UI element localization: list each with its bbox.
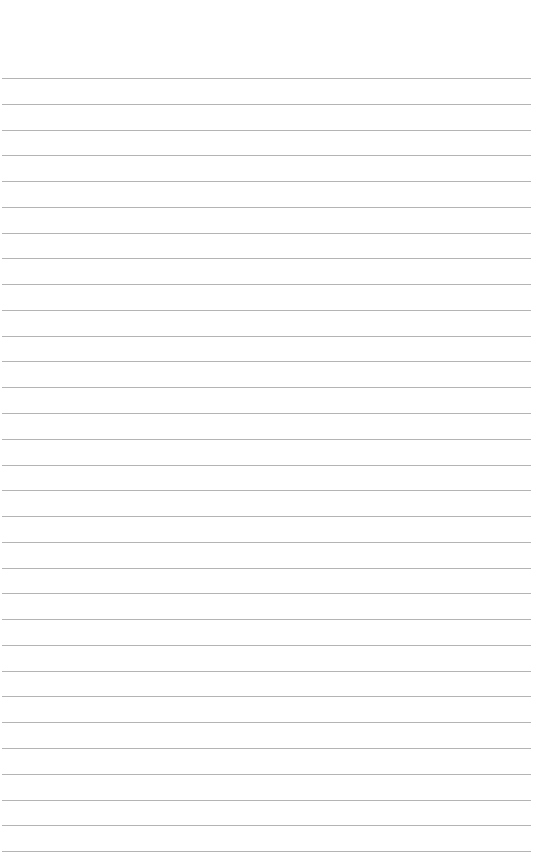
ruled-line bbox=[2, 284, 531, 285]
ruled-line bbox=[2, 722, 531, 723]
ruled-line bbox=[2, 104, 531, 105]
ruled-line bbox=[2, 748, 531, 749]
ruled-line bbox=[2, 516, 531, 517]
ruled-line bbox=[2, 413, 531, 414]
ruled-line bbox=[2, 465, 531, 466]
ruled-line bbox=[2, 258, 531, 259]
ruled-line bbox=[2, 851, 531, 852]
ruled-line bbox=[2, 490, 531, 491]
ruled-line bbox=[2, 619, 531, 620]
ruled-line bbox=[2, 310, 531, 311]
ruled-line bbox=[2, 78, 531, 79]
ruled-line bbox=[2, 155, 531, 156]
ruled-line bbox=[2, 593, 531, 594]
ruled-line bbox=[2, 696, 531, 697]
ruled-line bbox=[2, 207, 531, 208]
ruled-line bbox=[2, 671, 531, 672]
ruled-line bbox=[2, 361, 531, 362]
ruled-line bbox=[2, 568, 531, 569]
ruled-line bbox=[2, 800, 531, 801]
ruled-line bbox=[2, 645, 531, 646]
ruled-line bbox=[2, 387, 531, 388]
lined-paper-page bbox=[0, 0, 534, 866]
ruled-line bbox=[2, 825, 531, 826]
ruled-line bbox=[2, 542, 531, 543]
ruled-line bbox=[2, 181, 531, 182]
ruled-line bbox=[2, 774, 531, 775]
ruled-line bbox=[2, 233, 531, 234]
ruled-line bbox=[2, 336, 531, 337]
ruled-line bbox=[2, 439, 531, 440]
ruled-line bbox=[2, 130, 531, 131]
